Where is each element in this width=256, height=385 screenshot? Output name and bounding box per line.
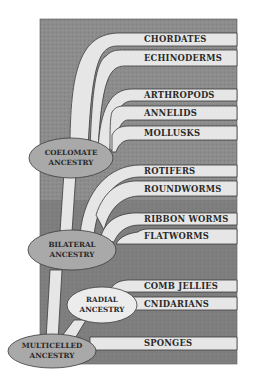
bilateral-ancestry-label: BILATERAL ANCESTRY	[28, 240, 116, 260]
phylogeny-diagram: CHORDATES ECHINODERMS ARTHROPODS ANNELID…	[0, 0, 256, 385]
multicelled-ancestry-label: MULTICELLED ANCESTRY	[8, 341, 96, 361]
coelomate-line2: ANCESTRY	[29, 158, 113, 168]
multicelled-line1: MULTICELLED	[8, 341, 96, 351]
multicelled-line2: ANCESTRY	[8, 351, 96, 361]
label-ribbon-worms: RIBBON WORMS	[144, 215, 228, 223]
radial-ancestry-label: RADIAL ANCESTRY	[67, 295, 137, 315]
label-annelids: ANNELIDS	[144, 109, 197, 117]
label-flatworms: FLATWORMS	[144, 232, 209, 240]
label-mollusks: MOLLUSKS	[144, 129, 200, 137]
label-chordates: CHORDATES	[144, 35, 207, 43]
label-echinoderms: ECHINODERMS	[144, 54, 222, 62]
label-rotifers: ROTIFERS	[144, 167, 195, 175]
label-sponges: SPONGES	[144, 339, 192, 347]
label-arthropods: ARTHROPODS	[144, 91, 215, 99]
label-comb-jellies: COMB JELLIES	[144, 282, 218, 290]
bilateral-line2: ANCESTRY	[28, 250, 116, 260]
bilateral-line1: BILATERAL	[28, 240, 116, 250]
label-roundworms: ROUNDWORMS	[144, 185, 221, 193]
coelomate-line1: COELOMATE	[29, 148, 113, 158]
radial-line1: RADIAL	[67, 295, 137, 305]
label-cnidarians: CNIDARIANS	[144, 300, 209, 308]
coelomate-ancestry-label: COELOMATE ANCESTRY	[29, 148, 113, 168]
radial-line2: ANCESTRY	[67, 305, 137, 315]
